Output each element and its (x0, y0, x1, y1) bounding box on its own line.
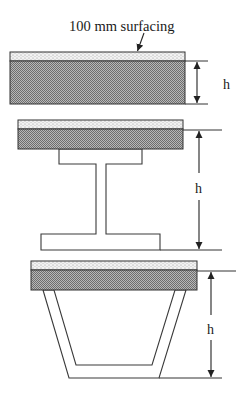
surfacing-layer (10, 52, 185, 61)
deck-slab (18, 129, 183, 149)
depth-label-h: h (207, 322, 214, 337)
box-girder-outline (43, 290, 186, 378)
deck-slab (31, 270, 197, 290)
surfacing-layer (18, 120, 183, 129)
surfacing-layer (31, 261, 197, 270)
depth-dimension: h (185, 61, 230, 104)
surfacing-label: 100 mm surfacing (69, 18, 175, 34)
depth-label-h: h (223, 77, 230, 92)
surfacing-annotation: 100 mm surfacing (69, 18, 175, 51)
bridge-cross-sections-diagram: 100 mm surfacing h h (0, 0, 249, 398)
surfacing-pointer-arrow-icon (138, 33, 145, 51)
depth-label-h: h (195, 181, 202, 196)
i-girder-section: h (18, 120, 222, 250)
deck-slab (10, 61, 185, 104)
box-girder-section: h (31, 261, 236, 378)
i-girder-outline (41, 149, 160, 250)
solid-slab-section: h (10, 52, 230, 104)
